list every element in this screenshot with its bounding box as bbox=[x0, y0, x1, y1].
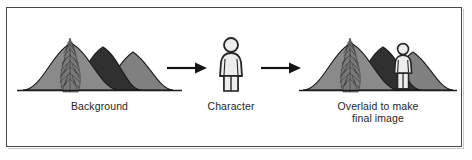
composite-panel bbox=[299, 30, 457, 95]
background-scene-svg bbox=[17, 30, 182, 95]
bush-tree bbox=[60, 38, 80, 92]
composite-scene-svg bbox=[299, 30, 457, 95]
figure-head bbox=[224, 38, 238, 52]
diagram-frame: Background Character bbox=[6, 7, 462, 147]
stick-figure bbox=[213, 36, 249, 95]
figure-torso bbox=[394, 55, 411, 73]
background-panel bbox=[17, 30, 182, 95]
arrow-right-icon bbox=[259, 60, 303, 76]
bush-tree bbox=[340, 38, 360, 92]
figure-torso bbox=[220, 53, 242, 76]
diagram-screenshot: Background Character bbox=[0, 0, 472, 160]
caption-composite: Overlaid to make final image bbox=[299, 100, 457, 124]
arrow-right-icon bbox=[165, 60, 209, 76]
character-panel bbox=[213, 36, 249, 95]
arrow-2 bbox=[259, 60, 303, 76]
arrow-1 bbox=[165, 60, 209, 76]
stick-figure bbox=[394, 44, 411, 89]
caption-character: Character bbox=[187, 100, 275, 112]
figure-head bbox=[398, 44, 409, 55]
caption-background: Background bbox=[17, 100, 182, 112]
